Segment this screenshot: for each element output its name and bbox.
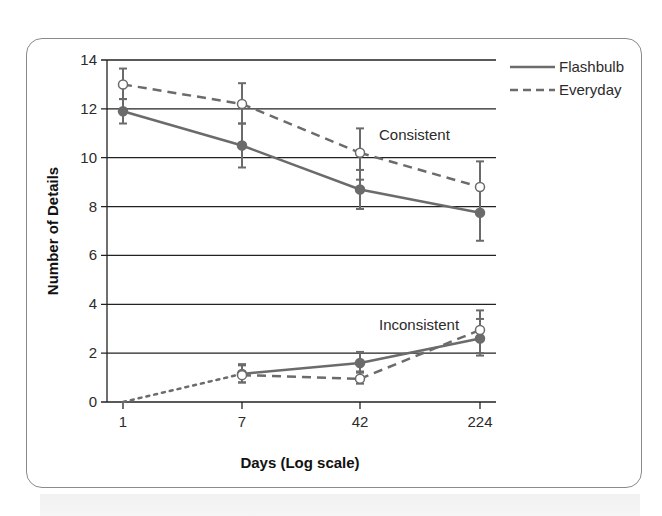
filled-circle-marker: [356, 185, 365, 194]
open-circle-marker: [476, 325, 485, 334]
y-tick-label: 12: [80, 100, 97, 117]
legend-flashbulb-label: Flashbulb: [559, 58, 624, 75]
x-tick-label: 42: [352, 413, 369, 430]
series-segment: [123, 84, 242, 104]
open-circle-marker: [119, 80, 128, 89]
x-tick-label: 1: [119, 413, 127, 430]
y-tick-label: 8: [89, 198, 97, 215]
open-circle-marker: [356, 374, 365, 383]
gridlines: [101, 60, 496, 402]
x-axis-title: Days (Log scale): [240, 454, 359, 471]
series-segment: [360, 338, 480, 362]
legend: Flashbulb Everyday: [510, 58, 624, 98]
series-flashbulb-consistent: [119, 99, 485, 241]
filled-circle-marker: [238, 141, 247, 150]
series-segment: [123, 374, 242, 402]
open-circle-marker: [476, 183, 485, 192]
open-circle-marker: [356, 148, 365, 157]
data-series: [119, 69, 485, 402]
series-segment: [123, 111, 242, 145]
filled-circle-marker: [356, 358, 365, 367]
y-tick-label: 6: [89, 246, 97, 263]
series-segment: [360, 189, 480, 212]
series-segment: [242, 375, 360, 379]
x-tick-label: 224: [467, 413, 492, 430]
y-tick-label: 2: [89, 344, 97, 361]
open-circle-marker: [238, 99, 247, 108]
series-segment: [242, 363, 360, 374]
y-tick-label: 14: [80, 51, 97, 68]
series-segment: [242, 146, 360, 190]
annotation-consistent: Consistent: [379, 126, 451, 143]
y-tick-label: 0: [89, 393, 97, 410]
legend-everyday-label: Everyday: [559, 81, 622, 98]
series-segment: [360, 330, 480, 379]
y-tick-label: 10: [80, 149, 97, 166]
annotation-inconsistent: Inconsistent: [379, 316, 460, 333]
filled-circle-marker: [119, 107, 128, 116]
x-tick-label: 7: [238, 413, 246, 430]
y-tick-label: 4: [89, 295, 97, 312]
series-segment: [242, 104, 360, 153]
open-circle-marker: [238, 371, 247, 380]
y-axis-title: Number of Details: [44, 167, 61, 295]
line-chart: 024681012141742224 Number of Details Day…: [0, 0, 662, 516]
axes: 024681012141742224: [80, 51, 492, 430]
